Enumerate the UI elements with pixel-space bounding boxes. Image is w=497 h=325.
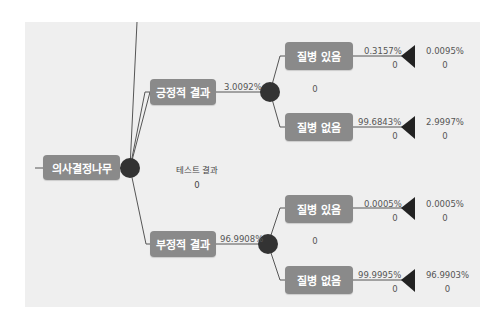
branch-negative-probability: 96.9908%	[220, 234, 263, 244]
leaf-payoff: 0	[388, 131, 402, 141]
leaf-probability: 99.9995%	[358, 270, 401, 280]
leaf-payoff: 0	[388, 60, 402, 70]
root-decision-node[interactable]: 의사결정나무	[43, 155, 120, 180]
leaf-payoff: 0	[388, 284, 402, 294]
branch-positive-node-value: 0	[300, 84, 330, 94]
terminal-node-icon	[401, 45, 415, 68]
leaf-positive-disease-yes[interactable]: 질병 있음	[285, 42, 353, 70]
chance-node-label: 테스트 결과	[172, 163, 222, 175]
leaf-probability: 0.3157%	[364, 46, 402, 56]
terminal-node-icon	[401, 197, 415, 220]
terminal-joint-payoff: 0	[425, 60, 465, 70]
terminal-joint-payoff: 0	[425, 284, 470, 294]
terminal-node-icon	[401, 269, 415, 292]
leaf-probability: 0.0005%	[364, 199, 402, 209]
leaf-positive-disease-no[interactable]: 질병 없음	[285, 113, 353, 141]
terminal-node-icon	[401, 116, 415, 139]
leaf-payoff: 0	[388, 213, 402, 223]
leaf-probability: 99.6843%	[358, 117, 401, 127]
chance-node-root	[120, 158, 140, 178]
terminal-joint-probability: 2.9997%	[425, 117, 465, 127]
leaf-negative-disease-yes[interactable]: 질병 있음	[285, 195, 353, 223]
branch-negative-node[interactable]: 부정적 결과	[150, 231, 216, 257]
terminal-joint-probability: 0.0005%	[425, 199, 465, 209]
terminal-joint-payoff: 0	[425, 213, 465, 223]
branch-positive-probability: 3.0092%	[224, 82, 262, 92]
terminal-joint-payoff: 0	[425, 131, 465, 141]
branch-positive-node[interactable]: 긍정적 결과	[150, 79, 216, 105]
terminal-joint-probability: 0.0095%	[425, 46, 465, 56]
branch-negative-node-value: 0	[300, 236, 330, 246]
terminal-joint-probability: 96.9903%	[425, 270, 470, 280]
chance-node-value: 0	[172, 180, 222, 190]
leaf-negative-disease-no[interactable]: 질병 없음	[285, 266, 353, 294]
chance-node-positive	[260, 82, 280, 102]
